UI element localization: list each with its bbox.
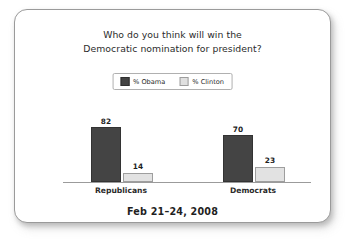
bar-group-democrats: 70 23 (223, 108, 285, 182)
chart-title-line-1: Who do you think will win the (15, 28, 330, 42)
bar-wrap-democrats-obama: 70 (223, 135, 253, 182)
chart-baseline-axis (63, 182, 311, 183)
bar-value-republicans-clinton: 14 (133, 162, 143, 171)
bar-republicans-obama (91, 127, 121, 182)
legend-label-obama: % Obama (133, 78, 165, 86)
legend-swatch-icon-clinton (179, 77, 188, 86)
bar-value-republicans-obama: 82 (101, 117, 111, 126)
chart-legend: % Obama % Clinton (112, 73, 233, 90)
bar-republicans-clinton (123, 173, 153, 182)
bar-wrap-democrats-clinton: 23 (255, 167, 285, 182)
legend-label-clinton: % Clinton (192, 78, 224, 86)
chart-plot-area: 82 14 70 23 (63, 108, 311, 183)
chart-screenshot: Who do you think will win the Democratic… (0, 0, 346, 241)
chart-title-line-2: Democratic nomination for president? (15, 42, 330, 56)
category-label-democrats: Democrats (195, 186, 311, 195)
category-label-republicans: Republicans (63, 186, 179, 195)
bar-wrap-republicans-clinton: 14 (123, 173, 153, 182)
bar-value-democrats-obama: 70 (233, 125, 243, 134)
chart-footer-date: Feb 21–24, 2008 (15, 206, 330, 217)
bar-value-democrats-clinton: 23 (265, 156, 275, 165)
bar-wrap-republicans-obama: 82 (91, 127, 121, 182)
legend-item-clinton: % Clinton (179, 77, 224, 86)
bar-democrats-clinton (255, 167, 285, 182)
bar-group-republicans: 82 14 (91, 108, 153, 182)
chart-title: Who do you think will win the Democratic… (15, 28, 330, 55)
bar-democrats-obama (223, 135, 253, 182)
chart-card: Who do you think will win the Democratic… (14, 9, 331, 223)
legend-item-obama: % Obama (120, 77, 165, 86)
legend-swatch-icon-obama (120, 77, 129, 86)
